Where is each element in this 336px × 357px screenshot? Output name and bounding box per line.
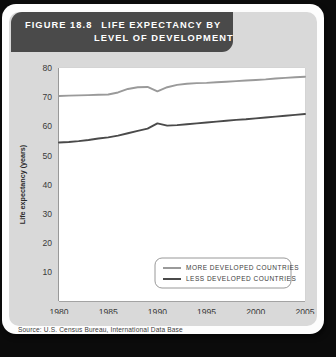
y-tick-80: 80: [42, 63, 52, 73]
source-caption: Source: U.S. Census Bureau, Internationa…: [18, 326, 183, 333]
x-tick-2000: 2000: [246, 307, 265, 314]
legend-label-1: LESS DEVELOPED COUNTRIES: [186, 275, 296, 282]
x-tick-2005: 2005: [295, 307, 314, 314]
figure-panel: FIGURE 18.8LIFE EXPECTANCY BY LEVEL OF D…: [9, 12, 317, 326]
figure-card: FIGURE 18.8LIFE EXPECTANCY BY LEVEL OF D…: [2, 4, 324, 334]
y-tick-40: 40: [42, 180, 52, 190]
figure-title-line-2: LEVEL OF DEVELOPMENT: [11, 32, 233, 45]
line-chart: 1020304050607080 19801985199019952000200…: [9, 56, 317, 314]
legend-label-0: MORE DEVELOPED COUNTRIES: [186, 264, 299, 271]
x-tick-1995: 1995: [197, 307, 216, 314]
y-tick-20: 20: [42, 238, 52, 248]
chart-legend: MORE DEVELOPED COUNTRIESLESS DEVELOPED C…: [155, 258, 299, 288]
figure-title-line-1: FIGURE 18.8LIFE EXPECTANCY BY: [11, 19, 233, 32]
y-tick-50: 50: [42, 151, 52, 161]
y-axis-title: Life expectancy (years): [18, 144, 27, 224]
figure-header: FIGURE 18.8LIFE EXPECTANCY BY LEVEL OF D…: [11, 12, 233, 52]
y-axis-tick-labels: 1020304050607080: [42, 63, 52, 277]
x-tick-1985: 1985: [99, 307, 118, 314]
x-tick-1990: 1990: [148, 307, 167, 314]
chart-area: 1020304050607080 19801985199019952000200…: [9, 56, 317, 314]
x-axis-tick-labels: 198019851990199520002005: [49, 307, 314, 314]
y-tick-10: 10: [42, 267, 52, 277]
figure-number: FIGURE 18.8: [25, 20, 92, 30]
y-tick-70: 70: [42, 92, 52, 102]
y-tick-60: 60: [42, 121, 52, 131]
x-tick-1980: 1980: [49, 307, 68, 314]
y-tick-30: 30: [42, 209, 52, 219]
figure-title-part-1: LIFE EXPECTANCY BY: [101, 20, 221, 30]
